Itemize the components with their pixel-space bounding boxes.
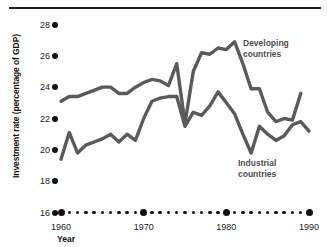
series-label-industrial-line2: countries [238, 169, 276, 179]
series-label-industrial: Industrial countries [238, 158, 276, 179]
series-label-industrial-line1: Industrial [238, 158, 276, 168]
investment-rate-chart: Investment rate (percentage of GDP) 2826… [0, 0, 327, 247]
series-line-industrial-countries [61, 92, 309, 159]
x-axis-title: Year [57, 234, 75, 244]
series-label-developing-line1: Developing [243, 38, 289, 48]
series-label-developing: Developing countries [243, 38, 289, 59]
series-label-developing-line2: countries [243, 49, 281, 59]
